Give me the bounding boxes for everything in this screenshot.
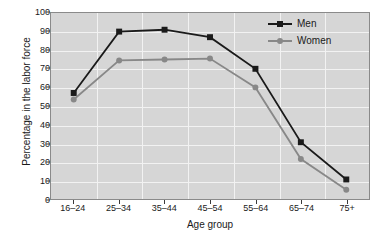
data-point-women (207, 56, 213, 62)
x-axis-tick-label: 45–54 (197, 204, 222, 213)
y-axis-tick-label: 10 (14, 177, 50, 186)
legend-item-men[interactable]: Men (268, 15, 364, 32)
data-point-men (343, 177, 349, 183)
y-axis-tick-mark (46, 49, 50, 50)
x-axis-tick-label: 16–24 (60, 204, 85, 213)
x-axis-tick-label: 65–74 (289, 204, 314, 213)
y-axis-tick-mark (46, 30, 50, 31)
data-point-men (298, 139, 304, 145)
y-axis-tick-mark (46, 68, 50, 69)
data-point-men (71, 90, 77, 96)
data-point-women (71, 97, 77, 103)
x-axis-tick-label: 25–34 (106, 204, 131, 213)
y-axis-tick-label: 100 (14, 8, 50, 17)
data-point-men (252, 66, 258, 72)
y-axis-tick-label: 70 (14, 64, 50, 73)
y-axis-tick-mark (46, 143, 50, 144)
data-point-men (116, 29, 122, 35)
y-axis-tick-label: 90 (14, 26, 50, 35)
legend-item-women[interactable]: Women (268, 32, 364, 49)
x-axis-tick-label: 75+ (340, 204, 355, 213)
y-axis-tick-mark (46, 124, 50, 125)
y-axis-tick-label: 30 (14, 139, 50, 148)
y-axis-tick-label: 80 (14, 45, 50, 54)
legend: MenWomen (268, 15, 364, 49)
y-axis-title: Percentage in the labor force (21, 12, 32, 192)
y-axis-tick-marks (46, 12, 52, 200)
x-axis-title: Age group (50, 219, 370, 230)
data-point-men (207, 34, 213, 40)
y-axis-tick-label: 50 (14, 102, 50, 111)
legend-swatch-women (268, 36, 292, 46)
y-axis-tick-mark (46, 181, 50, 182)
data-point-women (162, 57, 168, 63)
legend-swatch-men (268, 19, 292, 29)
legend-circle-marker-icon (277, 38, 283, 44)
line-chart: 0102030405060708090100 16–2425–3435–4445… (0, 0, 385, 249)
legend-label: Men (297, 19, 316, 29)
series-line-women (74, 59, 347, 190)
data-point-women (343, 187, 349, 193)
x-axis-tick-label: 35–44 (152, 204, 177, 213)
x-axis-tick-labels: 16–2425–3435–4445–5455–6465–7475+ (50, 204, 370, 218)
data-point-women (252, 84, 258, 90)
data-point-women (298, 156, 304, 162)
data-point-women (116, 57, 122, 63)
legend-square-marker-icon (277, 21, 283, 27)
legend-label: Women (297, 36, 331, 46)
y-axis-tick-label: 20 (14, 158, 50, 167)
y-axis-tick-label: 60 (14, 83, 50, 92)
x-axis-tick-label: 55–64 (243, 204, 268, 213)
series-line-men (74, 30, 347, 180)
y-axis-tick-mark (46, 87, 50, 88)
y-axis-tick-mark (46, 162, 50, 163)
y-axis-tick-mark (46, 106, 50, 107)
y-axis-tick-label: 40 (14, 120, 50, 129)
y-axis-tick-label: 0 (14, 196, 50, 205)
y-axis-tick-mark (46, 12, 50, 13)
data-point-men (162, 27, 168, 33)
